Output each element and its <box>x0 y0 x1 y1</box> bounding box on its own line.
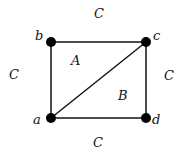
vertex-a <box>46 113 56 123</box>
vertex-label-c: c <box>153 28 161 43</box>
vertex-label-a: a <box>33 112 41 127</box>
vertex-label-b: b <box>35 28 43 43</box>
vertex-c <box>141 37 151 47</box>
vertex-b <box>46 37 56 47</box>
face-label-b-1: B <box>117 88 128 103</box>
edges <box>51 42 146 118</box>
labels: abcdABCCCC <box>9 6 174 150</box>
face-label-a-0: A <box>70 53 80 68</box>
vertex-label-d: d <box>152 112 160 127</box>
vertex-d <box>141 113 151 123</box>
edge-ac <box>51 42 146 118</box>
graph-diagram: abcdABCCCC <box>0 0 186 153</box>
face-label-c-3: C <box>9 67 19 82</box>
face-label-c-5: C <box>93 135 103 150</box>
face-label-c-4: C <box>164 68 174 83</box>
face-label-c-2: C <box>94 6 104 21</box>
